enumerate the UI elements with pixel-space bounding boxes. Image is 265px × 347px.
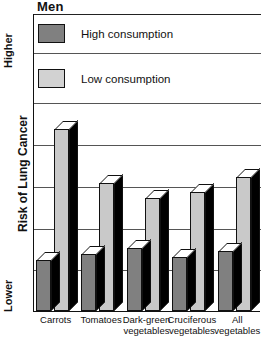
gridline [34, 103, 261, 104]
bar-side-face [96, 245, 105, 311]
bar-front-face [36, 260, 51, 311]
bar-side-face [51, 251, 60, 311]
bar-high-consumption [36, 260, 51, 311]
plot-area [33, 14, 260, 312]
bar-side-face [142, 239, 151, 311]
x-axis-label: All vegetables [209, 314, 265, 336]
y-axis-title: Risk of Lung Cancer [16, 115, 30, 232]
bar-high-consumption [127, 248, 142, 311]
bar-high-consumption [218, 251, 233, 311]
gridline [34, 53, 261, 54]
page-title: Men [37, 0, 64, 14]
bar-side-face [69, 120, 78, 311]
bar-front-face [218, 251, 233, 311]
bar-side-face [187, 248, 196, 311]
gridline [34, 14, 261, 15]
bar-side-face [233, 242, 242, 311]
y-axis-high-label: Higher [2, 33, 14, 68]
bar-side-face [114, 174, 123, 311]
bar-side-face [251, 168, 260, 311]
bar-high-consumption [172, 257, 187, 311]
bar-front-face [81, 254, 96, 311]
bar-side-face [205, 183, 214, 311]
y-axis-low-label: Lower [2, 280, 14, 312]
bar-side-face [160, 189, 169, 311]
bar-front-face [172, 257, 187, 311]
bar-high-consumption [81, 254, 96, 311]
bar-front-face [127, 248, 142, 311]
